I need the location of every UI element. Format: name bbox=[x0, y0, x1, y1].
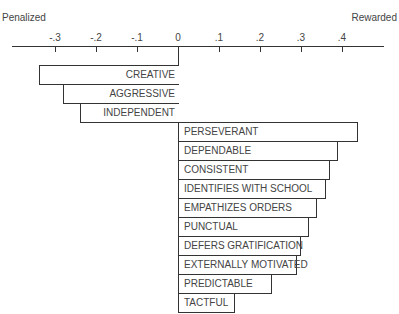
tick-mark bbox=[219, 46, 220, 52]
tick-label: .2 bbox=[256, 32, 264, 43]
penalized-label: Penalized bbox=[2, 12, 46, 23]
bar-identifies-with-school: IDENTIFIES WITH SCHOOL bbox=[178, 179, 326, 199]
tick-label: .4 bbox=[338, 32, 346, 43]
tick-mark bbox=[96, 46, 97, 52]
bar-externally-motivated: EXTERNALLY MOTIVATED bbox=[178, 255, 297, 275]
bar-perseverant: PERSEVERANT bbox=[178, 122, 358, 142]
bar-punctual: PUNCTUAL bbox=[178, 217, 309, 237]
tick-label: -.3 bbox=[49, 32, 61, 43]
bar-independent: INDEPENDENT bbox=[80, 103, 179, 123]
bar-creative: CREATIVE bbox=[39, 65, 179, 85]
tick-mark bbox=[342, 46, 343, 52]
bar-tactful: TACTFUL bbox=[178, 293, 235, 313]
tick-label: .3 bbox=[297, 32, 305, 43]
tick-mark bbox=[137, 46, 138, 52]
tick-label: 0 bbox=[175, 32, 181, 43]
tick-mark bbox=[260, 46, 261, 52]
x-axis bbox=[12, 46, 384, 47]
bar-dependable: DEPENDABLE bbox=[178, 141, 338, 161]
bar-aggressive: AGGRESSIVE bbox=[63, 84, 179, 104]
tick-label: .1 bbox=[215, 32, 223, 43]
rewarded-label: Rewarded bbox=[351, 12, 397, 23]
bar-consistent: CONSISTENT bbox=[178, 160, 330, 180]
bar-predictable: PREDICTABLE bbox=[178, 274, 272, 294]
bar-defers-gratification: DEFERS GRATIFICATION bbox=[178, 236, 301, 256]
tick-mark bbox=[301, 46, 302, 52]
tick-mark bbox=[55, 46, 56, 52]
tick-label: -.2 bbox=[90, 32, 102, 43]
bar-empathizes-orders: EMPATHIZES ORDERS bbox=[178, 198, 317, 218]
tick-label: -.1 bbox=[131, 32, 143, 43]
